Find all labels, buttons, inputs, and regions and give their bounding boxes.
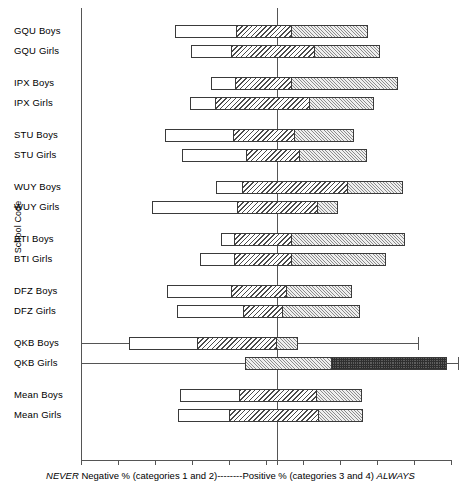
bar-row[interactable]: QKB Boys (0, 334, 451, 352)
bar-segment-category-2 (232, 285, 287, 298)
bar-segment-category-2 (243, 181, 348, 194)
stacked-bar[interactable] (221, 233, 405, 246)
bar-segment-category-1 (191, 45, 232, 58)
x-axis-tick (118, 460, 119, 465)
x-axis-tick (377, 460, 378, 465)
bar-row-label: WUY Girls (14, 201, 60, 212)
bar-row[interactable]: STU Girls (0, 146, 451, 164)
x-axis-tick (229, 460, 230, 465)
x-axis-tick (277, 460, 278, 465)
bar-segment-category-2 (238, 201, 318, 214)
bar-segment-category-2 (240, 389, 317, 402)
stacked-bar[interactable] (178, 409, 363, 422)
x-axis-tick (266, 460, 267, 465)
bar-row[interactable]: GQU Boys (0, 22, 451, 40)
bar-segment-category-3 (245, 357, 332, 370)
stacked-bar[interactable] (152, 201, 338, 214)
bar-row-label: GQU Boys (14, 25, 61, 36)
bar-row-label: Mean Boys (14, 389, 63, 400)
bar-segment-category-2 (232, 45, 315, 58)
x-axis-tick (340, 460, 341, 465)
bar-segment-category-3 (317, 389, 362, 402)
bar-row-label: DFZ Girls (14, 305, 56, 316)
bar-row[interactable]: BTI Boys (0, 230, 451, 248)
bar-row-label: STU Boys (14, 129, 58, 140)
bar-segment-category-1 (216, 181, 243, 194)
error-bar-cap (458, 357, 459, 370)
diverging-stacked-bar-chart: School Code GQU BoysGQU GirlsIPX BoysIPX… (0, 0, 461, 489)
stacked-bar[interactable] (177, 305, 360, 318)
bar-segment-category-1 (211, 77, 236, 90)
x-axis-caption-middle: Negative % (categories 1 and 2)--------P… (79, 470, 377, 481)
bar-row[interactable]: WUY Boys (0, 178, 451, 196)
bar-segment-category-3 (292, 253, 386, 266)
bar-segment-category-3 (318, 201, 338, 214)
stacked-bar[interactable] (216, 181, 403, 194)
bar-row[interactable]: Mean Girls (0, 406, 451, 424)
bar-segment-category-1 (221, 233, 235, 246)
bar-row[interactable]: IPX Girls (0, 94, 451, 112)
bar-row-label: BTI Boys (14, 233, 54, 244)
bar-segment-category-3 (348, 181, 403, 194)
bar-segment-category-1 (177, 305, 244, 318)
bar-segment-category-1 (182, 149, 247, 162)
bar-segment-category-3 (287, 285, 352, 298)
bar-row[interactable]: IPX Boys (0, 74, 451, 92)
stacked-bar[interactable] (245, 357, 447, 370)
x-axis-tick (155, 460, 156, 465)
bar-segment-category-2 (216, 97, 310, 110)
bar-row-label: QKB Boys (14, 337, 59, 348)
bar-segment-category-2 (237, 25, 292, 38)
bar-segment-category-3 (292, 233, 405, 246)
bar-row[interactable]: WUY Girls (0, 198, 451, 216)
stacked-bar[interactable] (190, 97, 374, 110)
bar-segment-category-3 (315, 45, 380, 58)
bar-segment-category-2 (247, 149, 300, 162)
stacked-bar[interactable] (180, 389, 362, 402)
bar-segment-category-2 (234, 129, 295, 142)
error-bar-cap (418, 337, 419, 350)
bar-row[interactable]: QKB Girls (0, 354, 451, 372)
bar-segment-category-3 (295, 129, 354, 142)
stacked-bar[interactable] (167, 285, 352, 298)
stacked-bar[interactable] (165, 129, 354, 142)
bar-segment-category-1 (180, 389, 240, 402)
x-axis-tick (303, 460, 304, 465)
x-axis-tick (414, 460, 415, 465)
bar-row-label: GQU Girls (14, 45, 59, 56)
bar-row[interactable]: DFZ Boys (0, 282, 451, 300)
bar-row-label: BTI Girls (14, 253, 52, 264)
stacked-bar[interactable] (191, 45, 380, 58)
bar-row[interactable]: GQU Girls (0, 42, 451, 60)
bar-row-label: IPX Girls (14, 97, 53, 108)
bar-row-label: DFZ Boys (14, 285, 57, 296)
bar-row-label: STU Girls (14, 149, 57, 160)
stacked-bar[interactable] (182, 149, 367, 162)
bar-row[interactable]: BTI Girls (0, 250, 451, 268)
x-axis-caption: NEVER Negative % (categories 1 and 2)---… (0, 470, 461, 481)
stacked-bar[interactable] (200, 253, 386, 266)
bar-segment-category-2 (198, 337, 277, 350)
bar-row[interactable]: Mean Boys (0, 386, 451, 404)
bar-segment-category-2 (235, 253, 292, 266)
bar-segment-category-3 (310, 97, 374, 110)
bar-segment-category-2 (236, 77, 292, 90)
bar-segment-category-2 (235, 233, 292, 246)
bar-row[interactable]: DFZ Girls (0, 302, 451, 320)
bar-segment-category-1 (167, 285, 232, 298)
x-axis-tick (451, 460, 452, 465)
bar-segment-category-1 (165, 129, 234, 142)
x-axis-caption-never: NEVER (46, 470, 79, 481)
x-axis-caption-always: ALWAYS (377, 470, 415, 481)
bar-segment-category-3 (277, 337, 298, 350)
x-axis-tick (192, 460, 193, 465)
stacked-bar[interactable] (129, 337, 298, 350)
bar-segment-category-1 (200, 253, 235, 266)
bar-row-label: Mean Girls (14, 409, 61, 420)
bar-row[interactable]: STU Boys (0, 126, 451, 144)
bar-segment-category-3 (292, 25, 368, 38)
stacked-bar[interactable] (211, 77, 398, 90)
plot-area: GQU BoysGQU GirlsIPX BoysIPX GirlsSTU Bo… (81, 8, 451, 460)
bar-segment-category-3 (300, 149, 367, 162)
stacked-bar[interactable] (175, 25, 368, 38)
